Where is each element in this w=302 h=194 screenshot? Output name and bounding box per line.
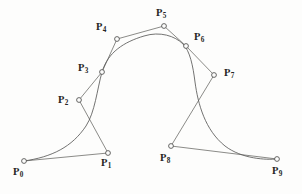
control-point-p9[interactable] xyxy=(275,157,280,162)
control-point-p6[interactable] xyxy=(184,44,189,49)
point-label-p8: P8 xyxy=(160,153,170,164)
control-point-p3[interactable] xyxy=(100,70,105,75)
control-point-p7[interactable] xyxy=(212,73,217,78)
point-label-p6: P6 xyxy=(194,32,204,43)
control-point-p8[interactable] xyxy=(169,144,174,149)
control-point-p4[interactable] xyxy=(115,37,120,42)
point-label-p3: P3 xyxy=(78,63,88,74)
point-label-p0: P0 xyxy=(13,167,23,178)
point-label-p1: P1 xyxy=(101,158,111,169)
point-label-p2: P2 xyxy=(58,95,68,106)
spline-canvas xyxy=(0,0,302,194)
control-point-p1[interactable] xyxy=(106,151,111,156)
point-label-p4: P4 xyxy=(96,22,106,33)
point-label-p5: P5 xyxy=(156,8,166,19)
point-label-p7: P7 xyxy=(224,68,234,79)
control-point-p2[interactable] xyxy=(77,98,82,103)
control-point-p0[interactable] xyxy=(22,159,27,164)
point-label-p9: P9 xyxy=(272,166,282,177)
control-point-p5[interactable] xyxy=(162,24,167,29)
